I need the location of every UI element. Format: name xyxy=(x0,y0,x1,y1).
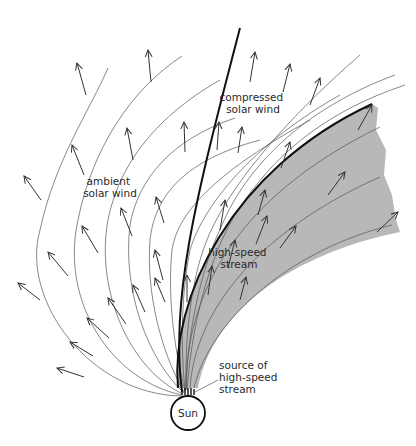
arrow xyxy=(238,127,242,153)
streamline xyxy=(37,68,182,396)
arrow xyxy=(155,278,165,302)
arrow xyxy=(57,368,84,377)
solar-wind-diagram: Sun compressed solar wind ambient solar … xyxy=(0,0,416,446)
sun-label: Sun xyxy=(178,407,198,419)
arrow xyxy=(217,122,219,150)
arrow xyxy=(220,200,225,230)
arrow xyxy=(148,50,151,82)
arrow xyxy=(18,283,40,300)
arrow xyxy=(133,285,145,312)
arrow xyxy=(155,250,163,280)
arrow xyxy=(72,145,84,175)
arrow xyxy=(310,78,320,105)
arrow xyxy=(24,176,41,200)
arrow xyxy=(82,226,98,253)
arrow xyxy=(70,342,93,356)
arrow xyxy=(283,64,290,92)
arrow xyxy=(127,128,133,160)
source-label: source of high-speed stream xyxy=(219,359,281,395)
compressed-solar-wind-label: compressed solar wind xyxy=(219,91,286,115)
arrow xyxy=(48,252,68,276)
arrow xyxy=(250,52,255,82)
arrow xyxy=(108,298,126,324)
arrow xyxy=(184,122,185,152)
sun: Sun xyxy=(171,388,205,430)
ambient-solar-wind-label: ambient solar wind xyxy=(83,175,137,199)
arrow xyxy=(77,63,86,95)
